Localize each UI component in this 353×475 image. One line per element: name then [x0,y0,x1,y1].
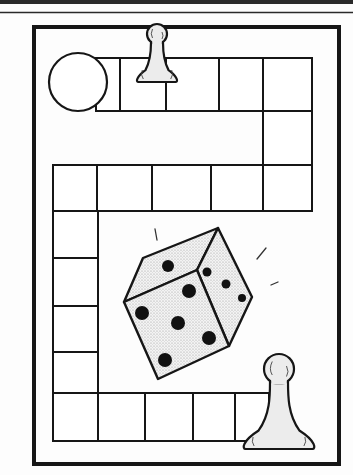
die-pip [202,331,216,345]
die-pip [238,294,246,302]
die-icon [124,228,278,379]
track-cell [97,165,152,211]
track-cell [53,393,98,441]
die-pip [222,280,231,289]
die-pip [182,284,196,298]
track-cell [53,306,98,352]
track-cell [193,393,235,441]
die-pip [171,316,185,330]
motion-mark [271,282,278,285]
track-cell [263,165,312,211]
pawn-neck-blend [152,40,162,46]
motion-mark [257,248,266,259]
header-rules [0,0,353,13]
track-cell [53,165,97,211]
die-pip [162,260,174,272]
track-cell [211,165,263,211]
track-cell [219,58,263,111]
track-cell [98,393,145,441]
header-rule [0,0,353,4]
track-cell [263,111,312,165]
track-cell [53,211,98,258]
track-cell [152,165,211,211]
start-circle-shape [49,53,107,111]
pawn-neck-blend [271,379,287,385]
track-cell [145,393,193,441]
track-cell [263,58,312,111]
start-circle [49,53,107,111]
track-cell [53,352,98,393]
board-game-illustration [0,0,353,475]
motion-mark [155,229,157,240]
die-pip [158,353,172,367]
die-pip [203,268,212,277]
track-cell [53,258,98,306]
board-game-drawing [0,0,353,475]
track-cell [166,58,219,111]
top-pawn-icon [137,24,177,82]
header-rule [0,12,353,14]
die-pip [135,306,149,320]
